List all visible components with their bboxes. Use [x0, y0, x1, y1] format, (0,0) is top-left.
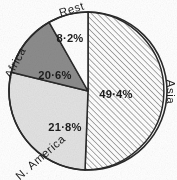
slice-value-rest: 8·2% [57, 32, 84, 44]
slice-value-north-america: 21·8% [48, 121, 81, 133]
pie-chart-figure: 49·4% 21·8% 20·6% 8·2% Asia N. America A… [0, 0, 177, 180]
category-label-asia: Asia [165, 80, 177, 105]
slice-value-africa: 20·6% [38, 69, 71, 81]
pie-chart-svg: 49·4% 21·8% 20·6% 8·2% Asia N. America A… [0, 0, 177, 180]
slice-value-asia: 49·4% [99, 88, 132, 100]
